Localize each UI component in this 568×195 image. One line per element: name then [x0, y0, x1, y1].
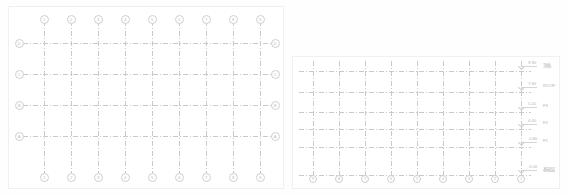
- plan-view-canvas[interactable]: 112233445566778899DDCCBBAA: [9, 7, 283, 188]
- grid-line-column-8: [339, 61, 340, 175]
- grid-bubble-bottom-1[interactable]: 1: [40, 173, 49, 182]
- elevation-view-canvas[interactable]: 9.90顶板7.90ROOF5.10F34.00F2-0.80F1-3.00基础…: [293, 57, 559, 188]
- grid-bubble-bottom-8[interactable]: 8: [229, 173, 238, 182]
- grid-bubble-bottom-7[interactable]: 7: [202, 173, 211, 182]
- level-elevation-F1: -0.80: [528, 136, 537, 141]
- grid-bubble-bottom-5[interactable]: 5: [148, 173, 157, 182]
- grid-bubble-right-C[interactable]: C: [271, 70, 280, 79]
- grid-line-row-D: [23, 43, 271, 44]
- level-tick-基础层: [518, 167, 525, 174]
- grid-bubble-top-7[interactable]: 7: [202, 15, 211, 24]
- grid-bubble-bottom-9[interactable]: 9: [256, 173, 265, 182]
- grid-line-row-C: [23, 74, 271, 75]
- grid-bubble-bottom-2[interactable]: 2: [491, 175, 499, 183]
- grid-bubble-bottom-8[interactable]: 8: [335, 175, 343, 183]
- grid-bubble-right-A[interactable]: A: [271, 132, 280, 141]
- grid-bubble-top-5[interactable]: 5: [148, 15, 157, 24]
- level-elevation-顶板: 9.90: [528, 60, 536, 65]
- elevation-view-panel[interactable]: 9.90顶板7.90ROOF5.10F34.00F2-0.80F1-3.00基础…: [292, 56, 560, 189]
- level-tick-ROOF: [518, 84, 525, 91]
- grid-bubble-left-C[interactable]: C: [15, 70, 24, 79]
- level-elevation-ROOF: 7.90: [528, 81, 536, 86]
- level-name-F2: F2: [543, 120, 548, 125]
- grid-bubble-right-B[interactable]: B: [271, 101, 280, 110]
- drawing-canvas: 112233445566778899DDCCBBAA 9.90顶板7.90ROO…: [0, 0, 568, 195]
- grid-line-column-9: [313, 61, 314, 175]
- plan-view-panel[interactable]: 112233445566778899DDCCBBAA: [8, 6, 284, 189]
- grid-bubble-bottom-1[interactable]: 1: [517, 175, 525, 183]
- level-elevation-基础层: -3.00: [528, 164, 537, 169]
- level-elevation-F3: 5.10: [528, 101, 536, 106]
- grid-line-row-A: [23, 136, 271, 137]
- grid-bubble-top-9[interactable]: 9: [256, 15, 265, 24]
- grid-bubble-bottom-7[interactable]: 7: [361, 175, 369, 183]
- level-tick-F3: [518, 104, 525, 111]
- grid-bubble-top-1[interactable]: 1: [40, 15, 49, 24]
- grid-bubble-top-2[interactable]: 2: [67, 15, 76, 24]
- grid-bubble-bottom-9[interactable]: 9: [309, 175, 317, 183]
- level-line-顶板: [299, 71, 531, 72]
- grid-line-column-1: [521, 61, 522, 175]
- level-line-F1: [299, 147, 531, 148]
- level-tick-顶板: [518, 63, 525, 70]
- grid-line-row-B: [23, 105, 271, 106]
- level-line-F2: [299, 129, 531, 130]
- grid-line-column-4: [443, 61, 444, 175]
- grid-bubble-right-D[interactable]: D: [271, 39, 280, 48]
- grid-bubble-top-3[interactable]: 3: [94, 15, 103, 24]
- grid-bubble-left-D[interactable]: D: [15, 39, 24, 48]
- grid-bubble-bottom-5[interactable]: 5: [413, 175, 421, 183]
- grid-line-column-2: [495, 61, 496, 175]
- grid-bubble-top-4[interactable]: 4: [121, 15, 130, 24]
- grid-bubble-bottom-3[interactable]: 3: [94, 173, 103, 182]
- grid-line-column-6: [391, 61, 392, 175]
- level-name-F1: F1: [543, 138, 548, 143]
- grid-bubble-bottom-6[interactable]: 6: [387, 175, 395, 183]
- level-line-F3: [299, 112, 531, 113]
- level-line-ROOF: [299, 92, 531, 93]
- grid-bubble-bottom-2[interactable]: 2: [67, 173, 76, 182]
- grid-bubble-bottom-4[interactable]: 4: [439, 175, 447, 183]
- level-tick-F2: [518, 121, 525, 128]
- grid-bubble-left-B[interactable]: B: [15, 101, 24, 110]
- grid-bubble-top-8[interactable]: 8: [229, 15, 238, 24]
- grid-bubble-top-6[interactable]: 6: [175, 15, 184, 24]
- grid-bubble-bottom-3[interactable]: 3: [465, 175, 473, 183]
- level-name-顶板: 顶板: [543, 62, 551, 68]
- grid-bubble-bottom-4[interactable]: 4: [121, 173, 130, 182]
- grid-bubble-bottom-6[interactable]: 6: [175, 173, 184, 182]
- grid-line-column-5: [417, 61, 418, 175]
- grid-line-column-3: [469, 61, 470, 175]
- level-name-ROOF: ROOF: [543, 83, 555, 88]
- grid-line-column-7: [365, 61, 366, 175]
- grid-bubble-left-A[interactable]: A: [15, 132, 24, 141]
- level-tick-F1: [518, 139, 525, 146]
- level-name-F3: F3: [543, 103, 548, 108]
- level-name-基础层: 基础层: [543, 166, 555, 172]
- level-elevation-F2: 4.00: [528, 118, 536, 123]
